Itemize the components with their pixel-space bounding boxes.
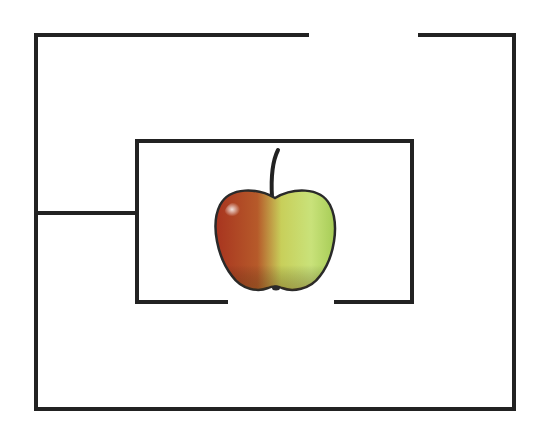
- maze-diagram: [0, 0, 554, 435]
- apple-bottom: [272, 286, 280, 291]
- apple-stem: [272, 150, 278, 197]
- apple-icon: [216, 150, 335, 291]
